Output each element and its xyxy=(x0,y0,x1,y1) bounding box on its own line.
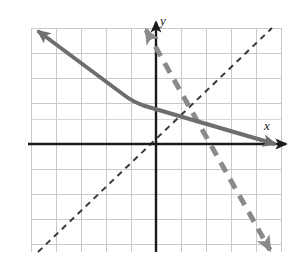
x-axis-label: x xyxy=(264,119,270,132)
coordinate-plane-svg xyxy=(0,0,302,274)
y-axis-label: y xyxy=(160,14,166,27)
graph-figure: FIGURE 4-29 xyxy=(0,0,302,274)
